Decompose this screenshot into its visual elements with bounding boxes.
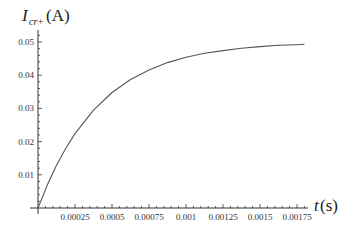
x-tick-label: 0.0005 bbox=[100, 212, 125, 222]
x-axis: 0.000250.00050.000750.0010.001250.00150.… bbox=[30, 204, 312, 222]
y-axis-title-subscript: cr+ bbox=[29, 16, 44, 27]
x-tick-label: 0.00025 bbox=[60, 212, 90, 222]
x-axis-title: t (s) bbox=[314, 196, 338, 215]
data-series-line bbox=[38, 44, 304, 208]
y-axis-title-unit: (A) bbox=[46, 6, 70, 25]
y-tick-label: 0.04 bbox=[18, 70, 34, 80]
y-tick-label: 0.01 bbox=[18, 170, 34, 180]
x-tick-label: 0.00175 bbox=[282, 212, 312, 222]
x-tick-label: 0.001 bbox=[176, 212, 196, 222]
y-axis-title-main: I bbox=[21, 6, 29, 25]
x-tick-label: 0.00075 bbox=[134, 212, 164, 222]
y-tick-label: 0.03 bbox=[18, 103, 34, 113]
y-tick-label: 0.05 bbox=[18, 37, 34, 47]
plot-area bbox=[38, 44, 304, 208]
y-axis-title: I cr+ (A) bbox=[21, 6, 70, 27]
chart: 0.010.020.030.040.05 0.000250.00050.0007… bbox=[0, 0, 351, 227]
x-tick-label: 0.00125 bbox=[208, 212, 238, 222]
y-axis: 0.010.020.030.040.05 bbox=[18, 30, 42, 214]
x-axis-title-unit: (s) bbox=[320, 196, 338, 215]
x-tick-label: 0.0015 bbox=[248, 212, 273, 222]
y-tick-label: 0.02 bbox=[18, 137, 34, 147]
